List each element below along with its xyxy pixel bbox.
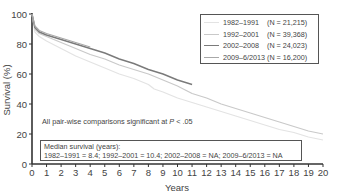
x-axis-label: Years: [165, 182, 189, 193]
legend-period: 2002–2008: [223, 41, 267, 50]
x-axis: 01234567891011121314151617181920: [29, 164, 328, 178]
note-text: All pair-wise comparisons significant at: [42, 117, 169, 126]
x-tick-label: 20: [318, 167, 329, 178]
legend-n: (N = 24,023): [267, 41, 307, 50]
legend-n: (N = 16,200): [267, 53, 307, 62]
significance-note: All pair-wise comparisons significant at…: [42, 117, 193, 126]
x-tick-label: 15: [245, 167, 256, 178]
x-tick-label: 17: [274, 167, 285, 178]
x-tick-label: 9: [160, 167, 165, 178]
x-tick-label: 10: [172, 167, 183, 178]
y-tick-label: 100: [11, 9, 27, 20]
x-tick-label: 1: [44, 167, 49, 178]
median-values: 1982–1991 = 8.4; 1992–2001 = 10.4; 2002–…: [44, 151, 298, 160]
note-suffix: < .05: [174, 117, 192, 126]
median-survival-box: Median survival (years): 1982–1991 = 8.4…: [40, 140, 302, 161]
legend-swatch-2002-2008: [204, 45, 219, 46]
legend-swatch-1982-1991: [204, 22, 219, 23]
x-tick-label: 8: [146, 167, 151, 178]
median-title: Median survival (years):: [44, 142, 298, 151]
curve-2002-2008: [32, 14, 192, 85]
x-tick-label: 2: [58, 167, 63, 178]
x-tick-label: 12: [201, 167, 212, 178]
x-tick-label: 5: [102, 167, 107, 178]
legend-period: 1982–1991: [223, 18, 267, 27]
legend-swatch-1992-2001: [204, 34, 219, 35]
y-tick-label: 80: [16, 39, 27, 50]
x-tick-label: 4: [88, 167, 93, 178]
x-tick-label: 19: [303, 167, 314, 178]
y-tick-label: 0: [22, 159, 27, 170]
legend-period: 1992–2001: [223, 30, 267, 39]
x-tick-label: 18: [289, 167, 300, 178]
y-tick-label: 20: [16, 129, 27, 140]
y-tick-label: 40: [16, 99, 27, 110]
y-tick-label: 60: [16, 69, 27, 80]
legend-item: 1992–2001 (N = 39,368): [204, 29, 315, 41]
x-tick-label: 11: [187, 167, 197, 178]
legend-item: 1982–1991 (N = 21,215): [204, 17, 315, 29]
chart-legend: 1982–1991 (N = 21,215) 1992–2001 (N = 39…: [200, 14, 319, 64]
legend-item: 2009–6/2013 (N = 16,200): [204, 52, 315, 64]
x-tick-label: 13: [216, 167, 227, 178]
legend-period: 2009–6/2013: [223, 53, 267, 62]
x-tick-label: 14: [230, 167, 241, 178]
x-tick-label: 0: [29, 167, 34, 178]
legend-item: 2002–2008 (N = 24,023): [204, 40, 315, 52]
legend-n: (N = 39,368): [267, 30, 307, 39]
x-tick-label: 16: [260, 167, 271, 178]
legend-swatch-2009-2013: [204, 57, 219, 58]
y-axis-label: Survival (%): [1, 64, 12, 115]
legend-n: (N = 21,215): [267, 18, 307, 27]
x-tick-label: 7: [131, 167, 136, 178]
x-tick-label: 6: [117, 167, 122, 178]
y-axis: 020406080100: [11, 9, 32, 170]
x-tick-label: 3: [73, 167, 78, 178]
